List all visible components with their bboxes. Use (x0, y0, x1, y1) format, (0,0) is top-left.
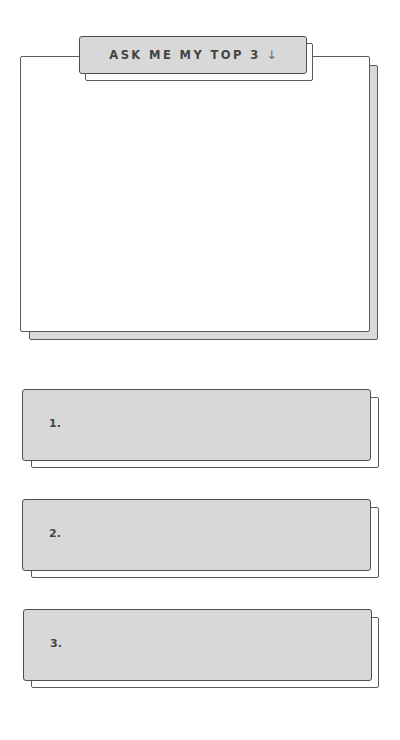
list-item-2[interactable]: 2. (22, 499, 371, 571)
header-tab: ASK ME MY TOP 3 ↓ (79, 36, 307, 74)
list-item-1[interactable]: 1. (22, 389, 371, 461)
list-item-number: 3. (50, 637, 62, 650)
header-title: ASK ME MY TOP 3 (109, 48, 260, 62)
list-item-number: 1. (49, 417, 61, 430)
answer-card[interactable] (20, 56, 370, 332)
list-item-number: 2. (49, 527, 61, 540)
arrow-down-icon: ↓ (267, 48, 277, 62)
list-item-3[interactable]: 3. (23, 609, 372, 681)
